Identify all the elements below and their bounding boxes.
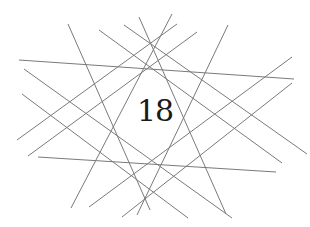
line-segment (19, 60, 294, 79)
line-segment (24, 69, 232, 218)
line-segment (124, 25, 307, 154)
figure-canvas: 18 (0, 0, 310, 227)
line-segment (99, 30, 282, 163)
figure-number: 18 (128, 93, 182, 129)
line-segment (89, 57, 292, 207)
